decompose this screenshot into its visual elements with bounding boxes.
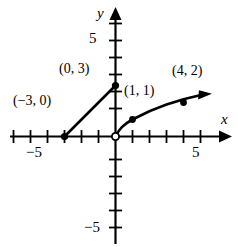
point-label-neg3-0: (−3, 0) [13,94,51,108]
curve-arrowhead [198,90,212,99]
y-axis-arrowhead [110,7,122,20]
x-axis-label: x [221,112,228,127]
x-axis-arrowhead [219,131,232,143]
point-marker-origin-open [112,133,119,140]
y-tick-label-pos5: 5 [89,31,97,46]
square-root-curve-path [116,95,203,137]
y-axis-label: y [97,6,104,21]
point-label-1-1: (1, 1) [124,84,154,98]
point-marker-1-1 [129,116,136,123]
graph-figure: x y −5 5 5 −5 (−3, 0) (0, 3) (1, 1) (4, … [0,0,238,247]
coordinate-plane-svg [0,0,238,247]
point-marker-neg3-0 [61,133,68,140]
point-label-4-2: (4, 2) [172,64,202,78]
x-tick-label-neg5: −5 [26,145,42,160]
linear-segment-path [65,86,116,137]
point-marker-0-3 [112,82,119,89]
point-marker-4-2 [180,99,187,106]
y-tick-label-neg5: −5 [84,220,100,235]
x-tick-label-pos5: 5 [192,145,200,160]
point-label-0-3: (0, 3) [59,62,89,76]
